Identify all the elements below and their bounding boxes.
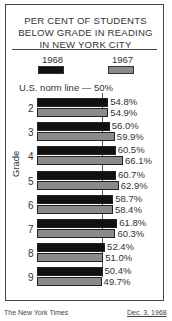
bar-row-grade-5: 560.7%62.9% [6, 171, 165, 193]
title-line-2: BELOW GRADE IN READING [6, 27, 165, 39]
bar-1967 [37, 205, 113, 214]
publication-date: Dec. 3, 1968 [127, 309, 167, 316]
value-label-1967: 60.3% [117, 228, 144, 239]
bar-1968 [37, 195, 113, 204]
grade-label: 6 [28, 200, 34, 211]
grade-label: 4 [28, 151, 34, 162]
bar-row-grade-2: 254.8%54.9% [6, 98, 165, 120]
grade-label: 9 [28, 272, 34, 283]
bar-1967 [37, 253, 103, 262]
bar-row-grade-8: 852.4%51.0% [6, 243, 165, 265]
bar-row-grade-3: 356.0%59.9% [6, 122, 165, 144]
grade-label: 8 [28, 248, 34, 259]
grade-label: 7 [28, 224, 34, 235]
value-label-1968: 61.8% [119, 217, 146, 228]
value-label-1967: 54.9% [110, 107, 137, 118]
grade-label: 3 [28, 127, 34, 138]
value-label-1968: 60.5% [118, 144, 145, 155]
bar-1967 [37, 277, 102, 286]
bar-1968 [37, 146, 116, 155]
grade-label: 5 [28, 176, 34, 187]
bar-1968 [37, 267, 103, 276]
value-label-1967: 51.0% [105, 252, 132, 263]
bar-1967 [37, 229, 115, 238]
grade-label: 2 [28, 103, 34, 114]
bar-1968 [37, 243, 105, 252]
value-label-1968: 50.4% [105, 265, 132, 276]
bar-1967 [37, 156, 123, 165]
chart-title: PER CENT OF STUDENTS BELOW GRADE IN READ… [6, 15, 165, 51]
norm-line-label: U.S. norm line — 50% [19, 82, 113, 93]
bar-1967 [37, 108, 108, 117]
bar-1968 [37, 122, 110, 131]
source-credit: The New York Times [4, 309, 68, 316]
bar-row-grade-6: 658.7%58.4% [6, 195, 165, 217]
value-label-1967: 49.7% [104, 276, 131, 287]
value-label-1967: 62.9% [121, 180, 148, 191]
value-label-1968: 58.7% [115, 193, 142, 204]
bar-1968 [37, 171, 116, 180]
value-label-1967: 58.4% [115, 204, 142, 215]
legend-label-1968: 1968 [42, 54, 63, 65]
bar-1968 [37, 98, 108, 107]
value-label-1968: 60.7% [118, 169, 145, 180]
value-label-1968: 54.8% [110, 96, 137, 107]
bar-row-grade-9: 950.4%49.7% [6, 267, 165, 289]
bar-row-grade-4: 460.5%66.1% [6, 146, 165, 168]
legend-swatch-1967 [108, 66, 134, 74]
value-label-1968: 56.0% [112, 120, 139, 131]
legend-label-1967: 1967 [112, 54, 133, 65]
title-line-1: PER CENT OF STUDENTS [6, 15, 165, 27]
title-divider [12, 49, 157, 50]
bar-1967 [37, 132, 115, 141]
bar-row-grade-7: 761.8%60.3% [6, 219, 165, 241]
chart-frame: PER CENT OF STUDENTS BELOW GRADE IN READ… [5, 4, 164, 301]
legend-swatch-1968 [38, 66, 64, 74]
bar-1967 [37, 181, 119, 190]
value-label-1967: 66.1% [125, 155, 152, 166]
value-label-1967: 59.9% [117, 131, 144, 142]
value-label-1968: 52.4% [107, 241, 134, 252]
bar-1968 [37, 219, 117, 228]
